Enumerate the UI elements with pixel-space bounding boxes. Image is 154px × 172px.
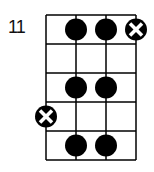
note-dot-icon (95, 77, 117, 99)
note-dot-icon (65, 135, 87, 157)
note-dot-icon (95, 19, 117, 41)
note-dot-icon (65, 77, 87, 99)
note-dot-icon (65, 19, 87, 41)
note-dot-icon (95, 135, 117, 157)
root-x-icon (125, 19, 147, 41)
root-x-icon (35, 106, 57, 128)
fretboard-grid (0, 0, 154, 172)
